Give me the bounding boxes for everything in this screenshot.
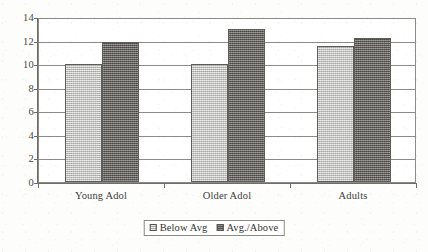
y-axis-tick-mark [34,18,38,19]
y-axis-tick-mark [34,136,38,137]
y-axis-tick-label: 8 [8,84,34,94]
y-axis-tick-label: 2 [8,154,34,164]
y-axis-tick-label: 10 [8,60,34,70]
y-axis-tick-label: 14 [8,13,34,23]
bar-young-adol-below-avg [65,64,102,182]
bars-layer [39,19,415,182]
legend-item: Avg./Above [216,222,278,233]
bar-older-adol-below-avg [191,64,228,182]
y-axis-tick-mark [34,112,38,113]
x-axis-category-label: Adults [290,190,416,202]
x-axis-category-label: Young Adol [38,190,164,202]
legend-item-label: Avg./Above [226,222,278,233]
bar-adults-below-avg [317,46,354,182]
chart-legend: Below AvgAvg./Above [144,220,285,236]
y-axis-tick-label: 4 [8,131,34,141]
y-axis-tick-label: 12 [8,37,34,47]
x-axis-category-label: Older Adol [164,190,290,202]
x-axis-separator-tick [416,183,417,188]
bar-chart-figure: 14121086420 Young AdolOlder AdolAdults B… [0,0,428,252]
y-axis-tick-labels: 14121086420 [0,0,34,252]
legend-swatch-icon [150,224,157,231]
y-axis-tick-mark [34,65,38,66]
bar-young-adol-avg-above [102,42,139,182]
legend-item-label: Below Avg [160,222,208,233]
y-axis-tick-mark [34,42,38,43]
plot-area [38,18,416,183]
legend-swatch-icon [216,224,223,231]
y-axis-tick-mark [34,159,38,160]
bar-older-adol-avg-above [228,29,265,182]
y-axis-tick-label: 6 [8,107,34,117]
bar-adults-avg-above [354,38,391,182]
y-axis-tick-label: 0 [8,178,34,188]
x-axis-line [37,183,417,184]
legend-item: Below Avg [150,222,208,233]
y-axis-tick-mark [34,89,38,90]
x-axis-separator-tick [164,183,165,188]
x-axis-separator-tick [38,183,39,188]
x-axis-separator-tick [290,183,291,188]
